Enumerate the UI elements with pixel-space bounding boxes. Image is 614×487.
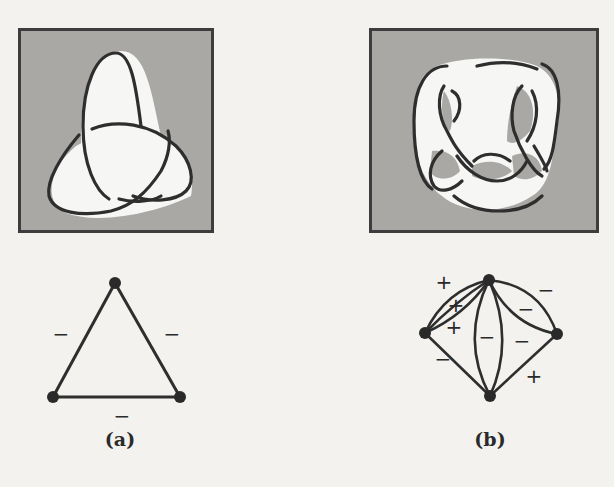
edge-sign-b-6: −: [477, 327, 497, 347]
knot-diagram-a: [18, 28, 214, 233]
edge-sign-b-8: −: [433, 349, 453, 369]
complex-knot-icon: [372, 31, 596, 230]
edge-sign-b-5: −: [516, 299, 536, 319]
edge-sign-b-7: −: [512, 331, 532, 351]
knot-diagram-b: [369, 28, 599, 233]
edge-sign-b-2: +: [446, 295, 466, 315]
trefoil-knot-icon: [21, 31, 211, 230]
edge-sign-b-3: +: [444, 317, 464, 337]
edge-sign-b-9: +: [524, 366, 544, 386]
caption-a: (a): [90, 428, 150, 450]
caption-b: (b): [460, 428, 520, 450]
edge-sign-b-4: −: [536, 280, 556, 300]
edge-sign-a-bottom: −: [112, 406, 132, 426]
edge-sign-b-1: +: [434, 272, 454, 292]
edge-sign-a-left: −: [51, 324, 71, 344]
edge-sign-a-right: −: [162, 324, 182, 344]
